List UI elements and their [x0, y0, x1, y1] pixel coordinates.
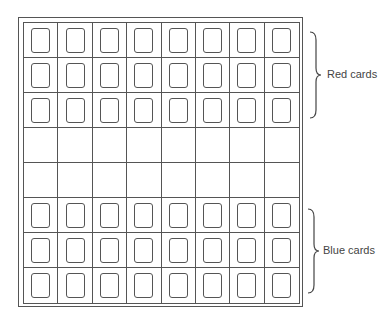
blue-card	[100, 203, 119, 228]
blue-card	[237, 203, 256, 228]
red-card	[100, 98, 119, 123]
blue-card	[31, 203, 50, 228]
blue-card	[100, 238, 119, 263]
grid-cell	[58, 58, 92, 93]
blue-card	[272, 273, 291, 298]
red-card	[272, 63, 291, 88]
red-card	[134, 98, 153, 123]
red-card	[272, 28, 291, 53]
grid-cell	[196, 163, 230, 198]
grid-cell	[265, 23, 299, 58]
blue-card	[169, 203, 188, 228]
blue-card	[203, 203, 222, 228]
blue-cards-brace	[306, 207, 322, 295]
red-card	[237, 63, 256, 88]
red-card	[134, 63, 153, 88]
grid-cell	[265, 233, 299, 268]
grid-cell	[162, 268, 196, 303]
grid-cell	[230, 128, 264, 163]
blue-card	[66, 238, 85, 263]
red-card	[203, 63, 222, 88]
grid-cell	[58, 233, 92, 268]
grid-cell	[162, 128, 196, 163]
blue-card	[134, 203, 153, 228]
grid-cell	[265, 163, 299, 198]
grid-cell	[196, 268, 230, 303]
grid-cell	[127, 58, 161, 93]
card-grid	[23, 22, 300, 304]
grid-cell	[162, 163, 196, 198]
red-card	[203, 98, 222, 123]
red-card	[31, 63, 50, 88]
grid-cell	[196, 128, 230, 163]
grid-cell	[196, 58, 230, 93]
grid-cell	[265, 128, 299, 163]
blue-card	[272, 238, 291, 263]
red-card	[66, 63, 85, 88]
grid-cell	[93, 233, 127, 268]
red-card	[272, 98, 291, 123]
grid-cell	[230, 233, 264, 268]
grid-cell	[127, 93, 161, 128]
blue-card	[134, 273, 153, 298]
grid-cell	[58, 93, 92, 128]
grid-cell	[24, 268, 58, 303]
blue-card	[169, 238, 188, 263]
grid-cell	[58, 198, 92, 233]
grid-cell	[58, 128, 92, 163]
grid-cell	[230, 163, 264, 198]
red-card	[100, 28, 119, 53]
red-card	[237, 98, 256, 123]
blue-card	[237, 238, 256, 263]
red-card	[66, 98, 85, 123]
grid-cell	[230, 268, 264, 303]
grid-cell	[162, 58, 196, 93]
grid-cell	[265, 93, 299, 128]
grid-cell	[24, 23, 58, 58]
grid-cell	[196, 233, 230, 268]
grid-cell	[230, 23, 264, 58]
blue-cards-label: Blue cards	[323, 244, 375, 256]
grid-cell	[93, 268, 127, 303]
grid-cell	[24, 163, 58, 198]
grid-cell	[127, 163, 161, 198]
grid-cell	[93, 128, 127, 163]
grid-cell	[93, 58, 127, 93]
red-card	[100, 63, 119, 88]
grid-cell	[162, 23, 196, 58]
grid-cell	[196, 23, 230, 58]
red-card	[134, 28, 153, 53]
red-card	[31, 98, 50, 123]
blue-card	[31, 238, 50, 263]
blue-card	[66, 203, 85, 228]
red-card	[169, 98, 188, 123]
red-cards-brace	[308, 30, 324, 120]
red-card	[66, 28, 85, 53]
grid-cell	[93, 23, 127, 58]
red-card	[237, 28, 256, 53]
grid-cell	[230, 58, 264, 93]
blue-card	[134, 238, 153, 263]
grid-cell	[93, 198, 127, 233]
grid-cell	[58, 23, 92, 58]
red-card	[169, 63, 188, 88]
grid-cell	[196, 93, 230, 128]
grid-cell	[127, 128, 161, 163]
grid-cell	[230, 198, 264, 233]
red-card	[31, 28, 50, 53]
grid-cell	[24, 58, 58, 93]
grid-cell	[93, 163, 127, 198]
red-card	[169, 28, 188, 53]
red-cards-label: Red cards	[327, 68, 377, 80]
grid-cell	[265, 198, 299, 233]
grid-cell	[24, 233, 58, 268]
grid-cell	[24, 93, 58, 128]
blue-card	[31, 273, 50, 298]
blue-card	[237, 273, 256, 298]
grid-cell	[265, 268, 299, 303]
blue-card	[203, 273, 222, 298]
grid-cell	[24, 128, 58, 163]
blue-card	[272, 203, 291, 228]
grid-cell	[196, 198, 230, 233]
grid-cell	[162, 93, 196, 128]
